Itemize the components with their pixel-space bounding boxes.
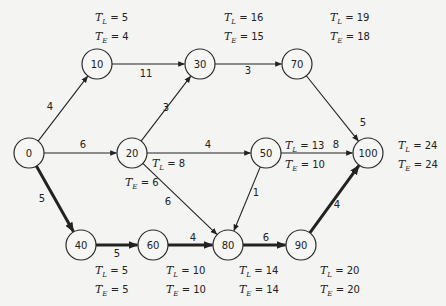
- earliest-time-label-80: TE = 14: [239, 283, 279, 298]
- latest-time-label-70: TL = 19: [330, 11, 369, 26]
- node-70: 70: [282, 49, 312, 79]
- node-label: 100: [358, 148, 377, 159]
- node-40: 40: [66, 230, 96, 260]
- edge-weight-label: 4: [190, 232, 196, 243]
- node-50: 50: [251, 138, 281, 168]
- edge-20-80: [143, 163, 217, 234]
- node-label: 30: [194, 59, 207, 70]
- earliest-time-label-50: TE = 10: [285, 158, 325, 173]
- edge-weight-label: 6: [165, 196, 171, 207]
- edge-0-10: [38, 76, 87, 141]
- earliest-time-label-90: TE = 20: [320, 283, 360, 298]
- earliest-time-label-20: TE = 6: [125, 176, 159, 191]
- edge-weight-label: 11: [140, 68, 153, 79]
- edge-70-100: [306, 76, 358, 141]
- node-label: 80: [222, 240, 235, 251]
- earliest-time-label-40: TE = 5: [95, 283, 129, 298]
- earliest-time-label-30: TE = 15: [224, 30, 264, 45]
- latest-time-label-100: TL = 24: [398, 139, 437, 154]
- node-30: 30: [185, 49, 215, 79]
- latest-time-label-40: TL = 5: [95, 264, 128, 279]
- earliest-time-label-10: TE = 4: [95, 30, 129, 45]
- node-label: 0: [26, 148, 32, 159]
- edge-weight-label: 5: [39, 193, 45, 204]
- node-label: 60: [147, 240, 160, 251]
- pert-diagram: 4651134635815464 0102030405060708090100 …: [0, 0, 446, 306]
- latest-time-label-30: TL = 16: [224, 11, 263, 26]
- latest-time-label-20: TL = 8: [152, 157, 185, 172]
- node-80: 80: [213, 230, 243, 260]
- network-canvas: 4651134635815464 0102030405060708090100 …: [0, 0, 446, 306]
- edge-weight-label: 4: [47, 101, 53, 112]
- earliest-time-label-60: TE = 10: [166, 283, 206, 298]
- edge-weight-label: 5: [360, 117, 366, 128]
- edge-weight-label: 8: [333, 139, 339, 150]
- node-10: 10: [82, 49, 112, 79]
- edge-weight-label: 1: [253, 187, 259, 198]
- latest-time-label-90: TL = 20: [320, 264, 359, 279]
- edge-50-80: [234, 167, 260, 231]
- node-label: 10: [91, 59, 104, 70]
- latest-time-label-50: TL = 13: [285, 139, 324, 154]
- earliest-time-label-100: TE = 24: [398, 158, 438, 173]
- edge-weight-label: 5: [114, 248, 120, 259]
- node-60: 60: [138, 230, 168, 260]
- edge-weight-label: 3: [245, 65, 251, 76]
- edge-weight-label: 4: [334, 199, 340, 210]
- node-label: 20: [126, 148, 139, 159]
- edge-weight-label: 6: [80, 139, 86, 150]
- latest-time-label-80: TL = 14: [239, 264, 278, 279]
- node-label: 90: [295, 240, 308, 251]
- node-label: 50: [260, 148, 273, 159]
- edge-weight-label: 3: [163, 102, 169, 113]
- node-0: 0: [14, 138, 44, 168]
- latest-time-label-60: TL = 10: [166, 264, 205, 279]
- earliest-time-label-70: TE = 18: [330, 30, 370, 45]
- nodes-layer: 0102030405060708090100: [14, 49, 383, 260]
- node-label: 70: [291, 59, 304, 70]
- edge-weight-label: 4: [205, 139, 211, 150]
- latest-time-label-10: TL = 5: [95, 11, 128, 26]
- edge-weight-label: 6: [263, 232, 269, 243]
- node-20: 20: [117, 138, 147, 168]
- node-90: 90: [286, 230, 316, 260]
- node-100: 100: [353, 138, 383, 168]
- node-label: 40: [75, 240, 88, 251]
